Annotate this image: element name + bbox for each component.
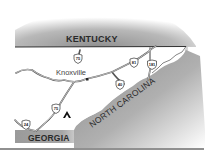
shield-24: 24 <box>22 120 30 130</box>
kentucky-border <box>15 47 186 48</box>
shield-40: 40 <box>116 80 124 90</box>
shield-81: 81 <box>130 58 138 68</box>
shield-number: 40 <box>118 82 123 87</box>
label-kentucky: KENTUCKY <box>66 34 118 44</box>
shield-number: 75 <box>54 106 59 111</box>
shield-number: 75 <box>76 56 81 61</box>
label-georgia: GEORGIA <box>28 133 70 143</box>
knoxville-marker-icon <box>86 78 89 81</box>
shield-181: 181 <box>148 60 157 70</box>
shield-75-north: 75 <box>74 54 82 64</box>
tennessee-map: 75 81 181 40 75 24 KENTUCKY Knoxville NO… <box>0 0 205 155</box>
label-knoxville: Knoxville <box>56 68 86 77</box>
shield-number: 24 <box>24 122 29 127</box>
shield-75-south: 75 <box>52 104 60 114</box>
shield-number: 181 <box>149 62 156 67</box>
shield-number: 81 <box>132 60 137 65</box>
